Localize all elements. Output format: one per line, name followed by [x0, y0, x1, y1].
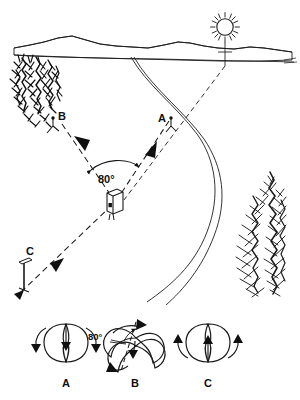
station-label-c: C — [26, 245, 34, 257]
station-label-b: B — [58, 110, 66, 122]
panel-c-label: C — [204, 377, 212, 389]
figure-root: 80° B A C — [0, 0, 300, 400]
panel-b-label: B — [131, 377, 139, 389]
station-label-a: A — [158, 112, 166, 124]
technical-illustration: 80° B A C — [0, 0, 300, 400]
panel-b-angle-label: 80° — [88, 331, 103, 342]
scene-angle-label: 80° — [98, 173, 115, 185]
panel-a-label: A — [62, 377, 70, 389]
